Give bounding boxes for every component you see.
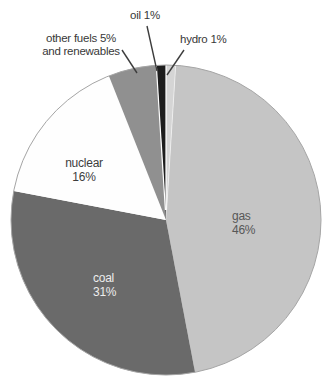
nuclear-label-name: nuclear <box>65 156 103 170</box>
oil-leader-line <box>147 26 157 71</box>
nuclear-slice-label: nuclear 16% <box>65 156 103 184</box>
gas-label-name: gas <box>232 210 255 224</box>
hydro-slice-label: hydro 1% <box>180 33 227 46</box>
pie-chart-figure: oil 1% other fuels 5% and renewables hyd… <box>0 0 333 388</box>
coal-label-name: coal <box>93 271 116 285</box>
other-fuels-label-line1: other fuels 5% <box>42 32 120 45</box>
other-fuels-slice-label: other fuels 5% and renewables <box>42 32 120 58</box>
gas-slice-label: gas 46% <box>232 210 255 237</box>
coal-slice-label: coal 31% <box>93 271 116 299</box>
coal-label-value: 31% <box>93 285 116 299</box>
other-fuels-label-line2: and renewables <box>42 45 120 58</box>
pie-chart <box>0 0 333 388</box>
gas-label-value: 46% <box>232 224 255 238</box>
oil-slice-label: oil 1% <box>130 9 160 22</box>
nuclear-label-value: 16% <box>65 170 103 184</box>
